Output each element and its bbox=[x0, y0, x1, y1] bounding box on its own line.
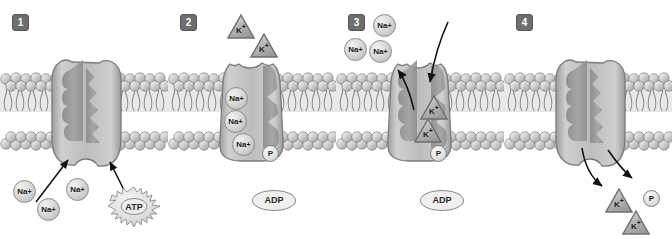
na-ion-bound: Na+ bbox=[224, 110, 247, 133]
phosphate-group: P bbox=[262, 145, 279, 162]
phosphate-group: P bbox=[643, 190, 660, 207]
phosphate-release-arrow bbox=[608, 150, 632, 178]
k-entry-arrow bbox=[430, 22, 448, 82]
k-release-arrow bbox=[582, 148, 602, 186]
k-ion-label: K+ bbox=[614, 197, 624, 209]
phosphate-group: P bbox=[430, 145, 447, 162]
panel-4: 4 K+ K+ P bbox=[504, 0, 672, 239]
na-ion-label: Na bbox=[17, 188, 27, 196]
na-release-arrow bbox=[398, 70, 414, 110]
panel-3: 3 Na+ Na+ Na+ K+ K+ bbox=[336, 0, 504, 239]
k-ion-bound: K+ bbox=[420, 95, 448, 120]
na-ion: Na+ bbox=[37, 198, 60, 221]
k-ion-label: K+ bbox=[423, 127, 433, 139]
k-ion-label: K+ bbox=[631, 219, 641, 231]
na-ion-bound: Na+ bbox=[232, 133, 255, 156]
na-ion-label: Na bbox=[41, 206, 51, 214]
k-ion-label: K+ bbox=[429, 104, 439, 116]
na-ion-label: Na bbox=[70, 186, 80, 194]
atp-label: ATP bbox=[106, 186, 162, 228]
k-ion-label: K+ bbox=[259, 42, 269, 54]
na-ion-released: Na+ bbox=[344, 38, 367, 61]
diagram-canvas: 1 bbox=[0, 0, 672, 239]
na-ion: Na+ bbox=[66, 178, 89, 201]
k-ion-label: K+ bbox=[236, 23, 246, 35]
na-ion: Na+ bbox=[13, 180, 36, 203]
k-ion-bound: K+ bbox=[414, 118, 442, 143]
adp-molecule: ADP bbox=[252, 190, 296, 211]
panel-1: 1 bbox=[0, 0, 168, 239]
atp-molecule: ATP bbox=[106, 186, 162, 228]
adp-molecule: ADP bbox=[420, 190, 464, 211]
panel-2: 2 K+ K+ Na+ Na+ Na+ P ADP bbox=[168, 0, 336, 239]
na-ion-released: Na+ bbox=[373, 14, 396, 37]
k-ion-released: K+ bbox=[622, 210, 650, 235]
na-ion-released: Na+ bbox=[369, 40, 392, 63]
panel-number-badge: 2 bbox=[180, 14, 197, 31]
na-binding-arrow bbox=[36, 160, 68, 202]
na-ion-bound: Na+ bbox=[225, 87, 248, 110]
k-ion: K+ bbox=[250, 33, 278, 58]
